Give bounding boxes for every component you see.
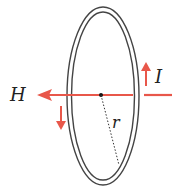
current-up-arrow-icon bbox=[141, 62, 151, 86]
current-down-arrow-icon bbox=[56, 106, 66, 130]
current-loop-diagram: H I r bbox=[0, 0, 189, 192]
radius-label: r bbox=[112, 113, 121, 132]
current-label: I bbox=[154, 66, 163, 87]
field-label: H bbox=[9, 84, 26, 105]
field-axis-line bbox=[37, 89, 172, 101]
